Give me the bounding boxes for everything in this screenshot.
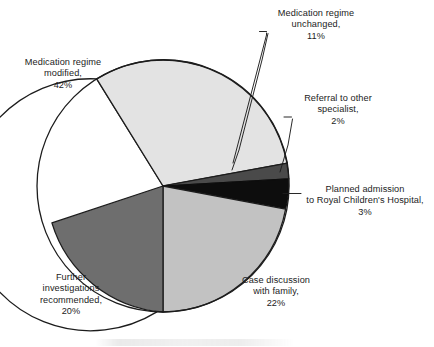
pie-chart-figure: Medication regime unchanged, 11% Medicat… [0,0,434,347]
slice-label-planned-admission: Planned admission to Royal Children's Ho… [296,184,434,218]
slice-label-medication-regime-modified: Medication regime modified, 42% [6,57,120,91]
slice-label-further-investigations: Further investigations recommended, 20% [18,272,124,318]
scanned-footer-artifact [95,339,295,346]
slice-label-case-discussion-with-family: Case discussion with family, 22% [222,275,330,309]
slice-label-medication-regime-unchanged: Medication regime unchanged, 11% [256,8,376,42]
slice-label-referral-to-other-specialist: Referral to other specialist, 2% [282,93,394,127]
